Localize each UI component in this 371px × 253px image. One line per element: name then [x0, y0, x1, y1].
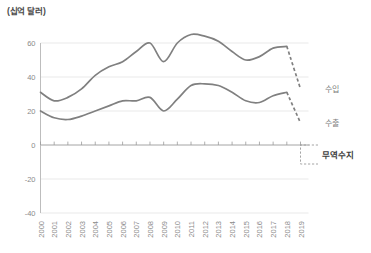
- x-axis-ticks-group: [41, 142, 301, 145]
- line-chart-svg: 6040200-20-40 20002001200220032004200520…: [0, 0, 371, 253]
- x-tick-label-2010: 2010: [173, 221, 182, 238]
- x-tick-label-2016: 2016: [255, 221, 264, 238]
- x-tick-label-2008: 2008: [146, 221, 155, 238]
- x-tick-label-2011: 2011: [187, 221, 196, 237]
- x-tick-label-2007: 2007: [132, 221, 141, 238]
- x-tick-label-2005: 2005: [105, 221, 114, 238]
- series-line-dashed-수출: [287, 92, 301, 123]
- series-line-dashed-수입: [287, 46, 301, 89]
- x-tick-label-2019: 2019: [297, 221, 306, 238]
- gridlines-group: [41, 43, 309, 213]
- series-line-수출: [41, 84, 287, 120]
- series-group: [41, 34, 301, 123]
- y-tick-label: -40: [25, 209, 36, 218]
- y-tick-label: 0: [31, 141, 35, 150]
- x-tick-label-2001: 2001: [50, 221, 59, 238]
- x-tick-label-2013: 2013: [214, 221, 223, 238]
- x-tick-label-2014: 2014: [228, 221, 237, 238]
- series-line-수입: [41, 34, 287, 101]
- y-tick-labels-group: 6040200-20-40: [25, 39, 36, 218]
- trade-balance-label: 무역수지: [322, 150, 354, 160]
- x-tick-label-2003: 2003: [78, 221, 87, 238]
- y-tick-label: 60: [27, 39, 35, 48]
- series-label-수입: 수입: [325, 85, 339, 94]
- x-tick-label-2002: 2002: [64, 221, 73, 238]
- x-tick-label-2009: 2009: [160, 221, 169, 238]
- x-tick-label-2004: 2004: [91, 221, 100, 238]
- series-labels-group: 수입수출: [325, 85, 339, 128]
- x-tick-label-2000: 2000: [37, 221, 46, 238]
- y-tick-label: 40: [27, 73, 35, 82]
- y-tick-label: -20: [25, 175, 36, 184]
- x-tick-labels-group: 2000200120022003200420052006200720082009…: [37, 221, 306, 238]
- x-tick-label-2015: 2015: [242, 221, 251, 238]
- y-tick-label: 20: [27, 107, 35, 116]
- trade-balance-bracket: [301, 145, 319, 164]
- x-tick-label-2012: 2012: [201, 221, 210, 238]
- chart-container: (십억 달러) 6040200-20-40 200020012002200320…: [0, 0, 371, 253]
- x-tick-label-2018: 2018: [283, 221, 292, 238]
- x-tick-label-2006: 2006: [119, 221, 128, 238]
- x-tick-label-2017: 2017: [269, 221, 278, 238]
- trade-balance-annotation: 무역수지: [301, 145, 355, 164]
- series-label-수출: 수출: [325, 118, 339, 128]
